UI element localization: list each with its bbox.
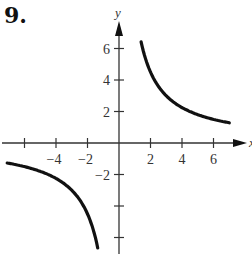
x-tick-label: 6 (210, 152, 217, 167)
curve-branch-negative (7, 163, 98, 248)
x-tick-label: −4 (47, 152, 62, 167)
y-axis-arrow-icon (115, 21, 123, 36)
x-tick-label: 4 (179, 152, 186, 167)
x-tick-label: −2 (78, 152, 93, 167)
curve-branch-positive (141, 42, 229, 123)
hyperbola-chart: xy−4−2246−2246 (0, 0, 252, 254)
x-axis-label: x (248, 135, 252, 150)
y-tick-label: −2 (95, 168, 110, 183)
y-tick-label: 4 (103, 73, 110, 88)
y-tick-label: 6 (103, 42, 110, 57)
x-tick-label: 2 (147, 152, 154, 167)
x-axis-arrow-icon (233, 139, 247, 147)
y-tick-label: 2 (103, 105, 110, 120)
y-axis-label: y (113, 5, 121, 20)
